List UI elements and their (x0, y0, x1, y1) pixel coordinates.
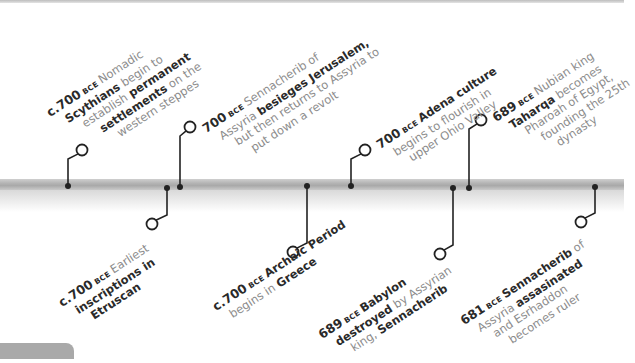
timeline-dot-icon (177, 184, 183, 190)
connector-line (469, 124, 477, 188)
event-connector-sennacherib-assassinated (576, 184, 599, 228)
timeline-dot-icon (348, 183, 354, 189)
event-ring-icon (576, 217, 587, 228)
connector-line (351, 154, 361, 186)
connector-line (180, 131, 186, 187)
timeline-dot-icon (164, 185, 170, 191)
timeline-dot-icon (466, 185, 472, 191)
timeline-dot-icon (65, 183, 71, 189)
timeline-dot-icon (592, 184, 598, 190)
event-connector-jerusalem (177, 122, 196, 191)
event-ring-icon (185, 122, 196, 133)
event-connector-adena (348, 145, 371, 190)
timeline-dot-icon (304, 183, 310, 189)
connector-line (585, 187, 595, 218)
bottom-tab[interactable] (0, 343, 74, 359)
event-connector-etruscan (147, 185, 171, 230)
event-ring-icon (147, 219, 158, 230)
event-connector-babylon (435, 185, 457, 260)
event-ring-icon (360, 145, 371, 156)
connector-line (156, 188, 167, 220)
connector-line (444, 188, 453, 250)
timeline-dot-icon (450, 185, 456, 191)
